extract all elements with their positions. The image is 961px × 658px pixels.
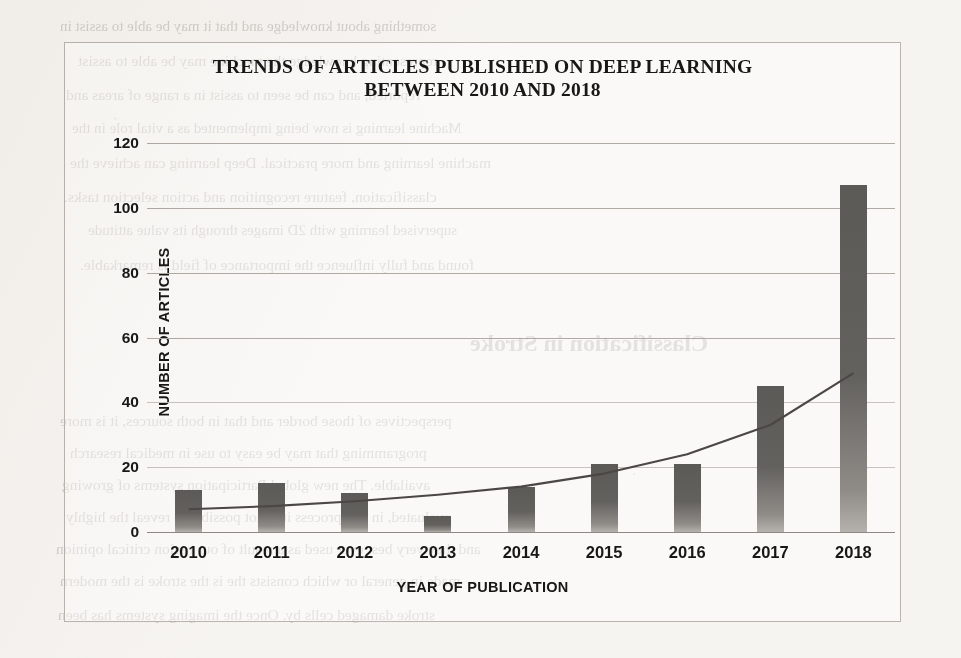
plot-area: 020406080100120 201020112012201320142015…	[147, 143, 895, 532]
chart-title: TRENDS OF ARTICLES PUBLISHED ON DEEP LEA…	[65, 55, 900, 101]
x-axis-tick-label: 2016	[669, 543, 706, 562]
y-axis-tick-label: 80	[122, 264, 139, 282]
bleed-line: something about knowledge and that it ma…	[60, 18, 436, 35]
x-axis-tick-label: 2011	[254, 543, 290, 562]
chart-title-line-1: TRENDS OF ARTICLES PUBLISHED ON DEEP LEA…	[213, 56, 753, 77]
x-axis-tick-label: 2013	[420, 543, 457, 562]
x-axis-tick-label: 2014	[503, 543, 540, 562]
y-axis-tick-label: 40	[122, 393, 139, 411]
chart-title-line-2: BETWEEN 2010 AND 2018	[65, 78, 900, 101]
trendline	[147, 143, 895, 532]
x-axis-tick-label: 2010	[170, 543, 207, 562]
y-axis-tick-label: 20	[122, 458, 139, 476]
x-axis-label: YEAR OF PUBLICATION	[65, 579, 900, 595]
x-axis-tick-label: 2017	[752, 543, 789, 562]
chart-container: TRENDS OF ARTICLES PUBLISHED ON DEEP LEA…	[64, 42, 901, 622]
y-axis-tick-label: 0	[130, 523, 139, 541]
x-axis-tick-label: 2015	[586, 543, 623, 562]
gridline	[147, 532, 895, 533]
y-axis-tick-label: 120	[113, 134, 139, 152]
y-axis-tick-label: 60	[122, 329, 139, 347]
x-axis-tick-label: 2012	[336, 543, 373, 562]
y-axis-tick-label: 100	[113, 199, 139, 217]
x-axis-tick-label: 2018	[835, 543, 872, 562]
